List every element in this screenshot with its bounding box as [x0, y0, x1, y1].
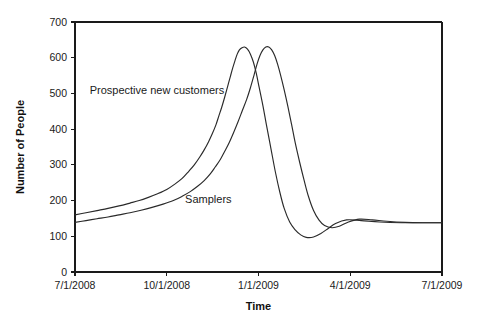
y-tick-label-500: 500: [49, 87, 67, 99]
x-axis-tick-labels: 7/1/200810/1/20081/1/20094/1/20097/1/200…: [55, 279, 463, 291]
y-axis-tick-labels: 0100200300400500600700: [49, 16, 67, 278]
series-line-prospective-new-customers: [75, 47, 442, 238]
chart-series-lines: [75, 47, 442, 238]
y-tick-label-300: 300: [49, 158, 67, 170]
chart-figure: 0100200300400500600700 7/1/200810/1/2008…: [0, 0, 486, 325]
x-tick-label-0: 7/1/2008: [55, 279, 96, 291]
annotation-prospective-new-customers: Prospective new customers: [90, 84, 225, 96]
y-tick-label-700: 700: [49, 16, 67, 28]
series-inline-labels: Prospective new customersSamplers: [90, 84, 232, 205]
y-tick-label-100: 100: [49, 230, 67, 242]
x-tick-label-2: 1/1/2009: [238, 279, 279, 291]
x-tick-label-3: 4/1/2009: [330, 279, 371, 291]
y-tick-label-600: 600: [49, 51, 67, 63]
y-tick-label-0: 0: [61, 266, 67, 278]
x-axis-title: Time: [246, 300, 271, 312]
annotation-samplers: Samplers: [185, 193, 232, 205]
chart-ticks: [71, 22, 442, 276]
y-tick-label-400: 400: [49, 123, 67, 135]
x-tick-label-1: 10/1/2008: [143, 279, 190, 291]
series-line-samplers: [75, 47, 442, 228]
x-tick-label-4: 7/1/2009: [422, 279, 463, 291]
line-chart: 0100200300400500600700 7/1/200810/1/2008…: [0, 0, 486, 325]
y-tick-label-200: 200: [49, 194, 67, 206]
y-axis-title: Number of People: [14, 100, 26, 194]
